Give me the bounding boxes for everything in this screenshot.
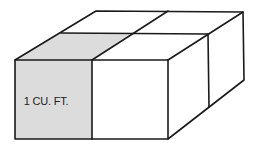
unit-cube-label: 1 CU. FT. xyxy=(24,95,69,107)
front-right-cube-front-face xyxy=(92,60,168,139)
right-side-face xyxy=(168,12,244,139)
cube-block-diagram: 1 CU. FT. xyxy=(0,0,259,149)
